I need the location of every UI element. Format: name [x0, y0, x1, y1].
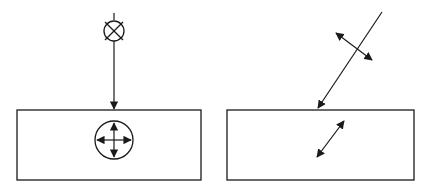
medium-box-left — [17, 110, 201, 180]
polarization-diagram — [0, 0, 428, 188]
right-panel-polarized — [227, 12, 414, 180]
medium-box-right — [227, 110, 414, 180]
left-panel-unpolarized — [17, 13, 201, 180]
incident-beam-oblique — [318, 12, 382, 108]
polarization-arrow-medium-icon — [317, 121, 344, 157]
beam-into-page-icon — [104, 13, 124, 41]
polarization-arrow-incident-icon — [336, 33, 372, 60]
four-way-arrows-icon — [95, 121, 133, 159]
